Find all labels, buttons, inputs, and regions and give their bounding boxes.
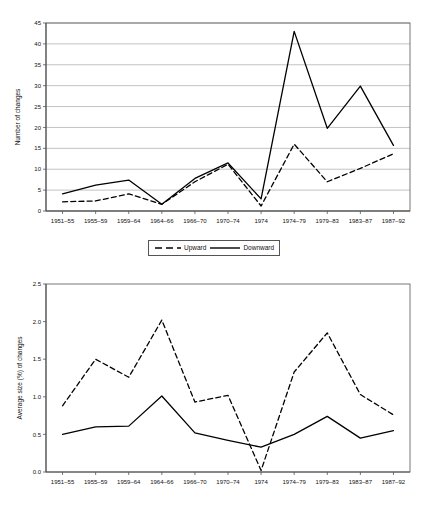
y-tick-label: 5 bbox=[38, 187, 42, 193]
legend-label-downward: Downward bbox=[243, 245, 274, 252]
y-tick-label: 2.5 bbox=[33, 281, 42, 287]
y-tick-label: 0 bbox=[38, 208, 42, 214]
y-tick-label: 15 bbox=[34, 145, 41, 151]
plot-area: 0510152025303540451951–551955–591959–641… bbox=[14, 20, 410, 223]
legend-figure-1: Upward Downward bbox=[148, 240, 280, 256]
x-tick-label: 1951–55 bbox=[51, 479, 75, 485]
x-tick-label: 1959–64 bbox=[117, 479, 141, 485]
x-tick-label: 1987–92 bbox=[382, 218, 406, 224]
y-tick-label: 20 bbox=[34, 125, 41, 131]
y-tick-label: 25 bbox=[34, 104, 41, 110]
x-tick-label: 1964–66 bbox=[150, 218, 174, 224]
legend-swatch-downward-solid bbox=[210, 245, 240, 251]
y-tick-label: 2.0 bbox=[33, 319, 42, 325]
x-tick-label: 1979–83 bbox=[316, 479, 340, 485]
legend-entry-upward: Upward bbox=[155, 245, 206, 252]
chart-average-size-of-changes: 0.00.51.01.52.02.51951–551955–591959–641… bbox=[0, 262, 428, 499]
x-tick-label: 1970–74 bbox=[216, 218, 240, 224]
figure-average-size-of-changes: 0.00.51.01.52.02.51951–551955–591959–641… bbox=[0, 262, 428, 517]
x-tick-label: 1983–87 bbox=[349, 479, 373, 485]
y-axis-title: Average size (%) of changes bbox=[16, 336, 24, 420]
y-tick-label: 1.0 bbox=[33, 394, 42, 400]
x-tick-label: 1970–74 bbox=[216, 479, 240, 485]
legend-label-upward: Upward bbox=[184, 245, 206, 252]
y-tick-label: 1.5 bbox=[33, 356, 42, 362]
x-tick-label: 1974–79 bbox=[283, 479, 307, 485]
x-tick-label: 1955–59 bbox=[84, 218, 108, 224]
plot-area: 0.00.51.01.52.02.51951–551955–591959–641… bbox=[16, 281, 410, 484]
x-tick-label: 1966–70 bbox=[183, 479, 207, 485]
x-tick-label: 1966–70 bbox=[183, 218, 207, 224]
legend-swatch-upward-dashed bbox=[155, 245, 181, 251]
figure-number-of-changes: 0510152025303540451951–551955–591959–641… bbox=[0, 0, 428, 262]
x-tick-label: 1955–59 bbox=[84, 479, 108, 485]
legend-entry-downward: Downward bbox=[210, 245, 274, 252]
y-tick-label: 35 bbox=[34, 62, 41, 68]
x-tick-label: 1979–83 bbox=[316, 218, 340, 224]
y-tick-label: 0.0 bbox=[33, 469, 42, 475]
plot-background bbox=[46, 284, 410, 472]
x-tick-label: 1974 bbox=[254, 218, 268, 224]
y-axis-title: Number of changes bbox=[14, 88, 22, 145]
x-tick-label: 1951–55 bbox=[51, 218, 75, 224]
x-tick-label: 1964–66 bbox=[150, 479, 174, 485]
x-tick-label: 1974 bbox=[254, 479, 268, 485]
y-tick-label: 10 bbox=[34, 166, 41, 172]
y-tick-label: 0.5 bbox=[33, 432, 42, 438]
y-tick-label: 30 bbox=[34, 83, 41, 89]
plot-background bbox=[46, 23, 410, 211]
chart-number-of-changes: 0510152025303540451951–551955–591959–641… bbox=[0, 0, 428, 238]
x-tick-label: 1987–92 bbox=[382, 479, 406, 485]
x-tick-label: 1959–64 bbox=[117, 218, 141, 224]
y-tick-label: 45 bbox=[34, 20, 41, 26]
x-tick-label: 1983–87 bbox=[349, 218, 373, 224]
x-tick-label: 1974–79 bbox=[283, 218, 307, 224]
y-tick-label: 40 bbox=[34, 41, 41, 47]
